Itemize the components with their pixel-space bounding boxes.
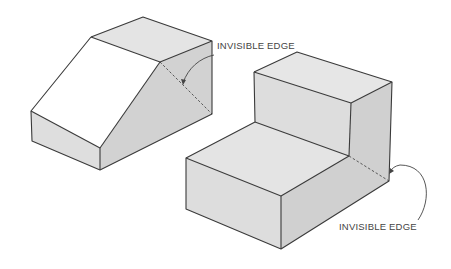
right-callout-label: INVISIBLE EDGE bbox=[339, 221, 417, 232]
step-block bbox=[186, 52, 392, 249]
isometric-diagram: INVISIBLE EDGE INVISIBLE EDGE bbox=[0, 0, 451, 269]
left-callout-label: INVISIBLE EDGE bbox=[217, 40, 295, 51]
right-callout-leader bbox=[390, 165, 426, 220]
wedge-block bbox=[31, 17, 212, 170]
